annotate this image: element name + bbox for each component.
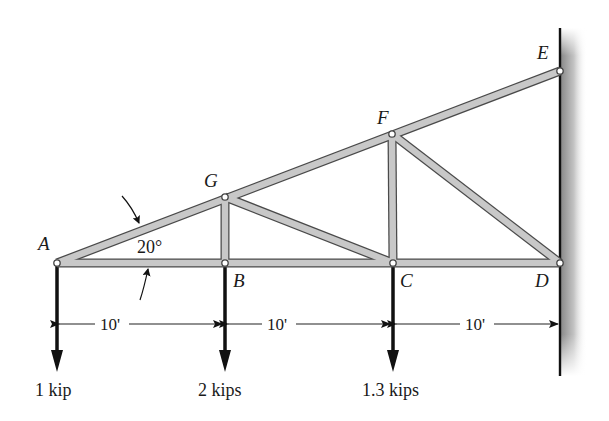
node-label-e: E <box>536 42 549 63</box>
member-fd <box>392 134 560 263</box>
node-label-c: C <box>400 270 413 291</box>
angle-label: 20° <box>137 237 162 257</box>
dimension-label-cd: 10' <box>465 315 485 334</box>
load-label-a: 1 kip <box>35 380 72 400</box>
dimension-label-bc: 10' <box>267 315 287 334</box>
load-arrow-c <box>387 265 399 372</box>
node-label-g: G <box>204 170 218 191</box>
truss-members <box>57 71 560 263</box>
pin-f <box>389 131 395 137</box>
load-label-b: 2 kips <box>198 380 242 400</box>
member-gc <box>225 197 393 263</box>
member-fc <box>392 134 393 263</box>
dimension-label-ab: 10' <box>100 315 120 334</box>
load-arrow-a <box>51 265 63 372</box>
wall-support <box>560 28 587 376</box>
node-labels: A B C D E F G <box>36 42 549 291</box>
node-label-b: B <box>233 270 245 291</box>
node-label-a: A <box>36 233 50 254</box>
pin-c <box>390 260 396 266</box>
pin-g <box>222 194 228 200</box>
pin-b <box>222 260 228 266</box>
load-label-c: 1.3 kips <box>362 380 419 400</box>
pin-a <box>54 260 60 266</box>
node-label-f: F <box>376 107 389 128</box>
node-label-d: D <box>534 270 549 291</box>
pin-e <box>557 68 563 74</box>
load-arrow-b <box>219 265 231 372</box>
pin-d <box>557 260 563 266</box>
load-labels: 1 kip 2 kips 1.3 kips <box>35 380 419 400</box>
truss-diagram: A B C D E F G 20° 10' 10' 10' 1 kip 2 ki… <box>0 0 609 421</box>
